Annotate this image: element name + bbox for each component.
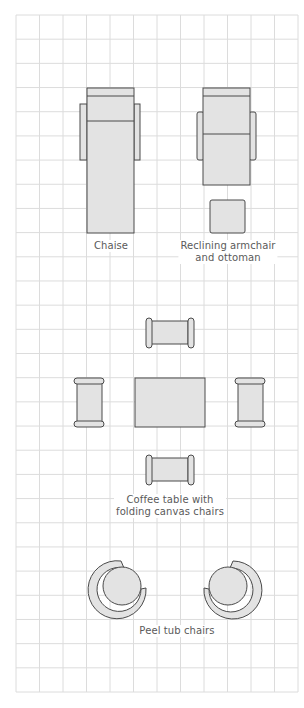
recliner-label-line-2: and ottoman xyxy=(180,252,275,264)
tub-chairs-label-line: Peel tub chairs xyxy=(139,625,214,637)
folding-chair-top xyxy=(146,318,194,348)
folding-chair-left xyxy=(74,378,104,427)
tub-chairs-label: Peel tub chairs xyxy=(137,625,216,637)
coffee-table-label: Coffee table with folding canvas chairs xyxy=(114,494,226,518)
chaise-body xyxy=(87,88,134,233)
chaise-left-arm xyxy=(80,104,87,160)
folding-chair-bottom xyxy=(146,455,194,485)
coffee-table-label-line-1: Coffee table with xyxy=(116,494,224,506)
peel-tub-chairs xyxy=(88,561,262,619)
reclining-armchair xyxy=(197,88,256,233)
recliner-label: Reclining armchair and ottoman xyxy=(178,240,277,264)
chaise-label: Chaise xyxy=(92,240,130,252)
folding-chair-right xyxy=(235,378,265,427)
ottoman xyxy=(210,200,245,233)
recliner-body xyxy=(203,88,250,185)
chaise-label-line: Chaise xyxy=(94,240,128,252)
chaise-right-arm xyxy=(134,104,140,160)
coffee-table-label-line-2: folding canvas chairs xyxy=(116,506,224,518)
floor-plan-diagram xyxy=(0,0,304,708)
coffee-table xyxy=(135,378,205,427)
tub-chair-right xyxy=(204,561,262,619)
tub-chair-left xyxy=(88,561,146,619)
recliner-label-line-1: Reclining armchair xyxy=(180,240,275,252)
chaise xyxy=(80,88,140,233)
